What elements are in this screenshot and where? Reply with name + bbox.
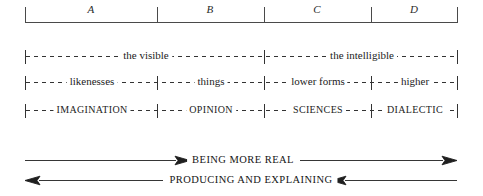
label-sciences: SCIENCES (290, 105, 346, 115)
diagram-text-layer: A B C D the visible the intelligible lik… (0, 0, 483, 196)
label-imagination: IMAGINATION (53, 105, 130, 115)
segment-letter-c: C (313, 3, 321, 15)
label-opinion: OPINION (186, 105, 236, 115)
segment-letter-d: D (410, 3, 418, 15)
segment-letter-a: A (88, 3, 95, 15)
segment-letter-b: B (207, 3, 214, 15)
caption-being-more-real: BEING MORE REAL (187, 155, 299, 166)
label-lower-forms: lower forms (288, 76, 347, 87)
caption-producing-and-explaining: PRODUCING AND EXPLAINING (164, 175, 337, 186)
label-higher: higher (398, 76, 432, 87)
label-likenesses: likenesses (67, 76, 118, 87)
label-things: things (195, 76, 228, 87)
label-the-visible: the visible (120, 50, 172, 61)
divided-line-diagram: A B C D the visible the intelligible lik… (0, 0, 483, 196)
label-the-intelligible: the intelligible (327, 50, 397, 61)
label-dialectic: DIALECTIC (384, 105, 446, 115)
